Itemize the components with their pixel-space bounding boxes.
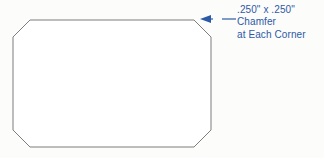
callout-line-feature: Chamfer: [237, 16, 306, 28]
chamfered-plate-outline: [13, 20, 211, 147]
callout-line-dimension: .250" x .250": [237, 4, 306, 16]
chamfer-callout-text: .250" x .250" Chamfer at Each Corner: [237, 4, 306, 41]
callout-line-scope: at Each Corner: [237, 29, 306, 41]
chamfer-drawing-figure: .250" x .250" Chamfer at Each Corner: [0, 0, 324, 158]
arrow-left-icon: [200, 15, 211, 23]
